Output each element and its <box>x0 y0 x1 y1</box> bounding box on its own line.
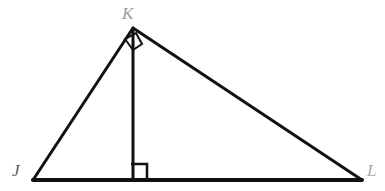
segment-kl <box>133 28 362 180</box>
segment-jk <box>33 28 133 180</box>
vertex-label-l: L <box>367 162 376 179</box>
geometry-diagram-canvas: J K L <box>0 0 385 191</box>
vertex-label-j: J <box>12 162 20 179</box>
triangle-figure <box>0 0 385 191</box>
vertex-label-k: K <box>122 5 133 22</box>
